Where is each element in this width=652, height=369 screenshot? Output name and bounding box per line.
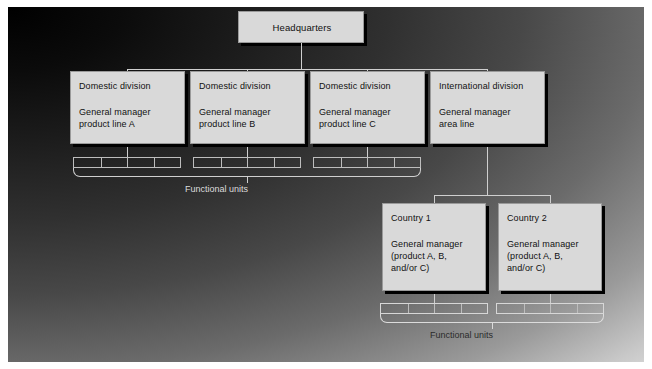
brace-international-functional-units xyxy=(380,314,604,323)
functional-units-bar-div3 xyxy=(313,157,421,168)
connector-international-stem xyxy=(487,147,488,195)
unit-divider xyxy=(274,158,275,167)
connector-hq-bus xyxy=(127,69,487,70)
country-1-heading: Country 1 xyxy=(391,213,431,225)
international-line1: General manager xyxy=(439,107,511,119)
division-a-heading: Domestic division xyxy=(79,81,151,93)
node-domestic-division-a: Domestic division General manager produc… xyxy=(70,71,185,144)
functional-units-bar-country2 xyxy=(496,303,604,314)
country-2-line1: General manager xyxy=(507,239,579,251)
division-c-line1: General manager xyxy=(319,107,391,119)
connector-country-bus xyxy=(434,195,550,196)
brace-international-stem xyxy=(492,323,493,329)
unit-divider xyxy=(550,304,551,313)
country-1-line2: (product A, B, xyxy=(391,251,447,263)
unit-divider xyxy=(221,158,222,167)
node-domestic-division-c: Domestic division General manager produc… xyxy=(310,71,425,144)
country-2-line3: and/or C) xyxy=(507,263,545,275)
unit-divider xyxy=(247,158,248,167)
unit-divider xyxy=(367,158,368,167)
division-c-heading: Domestic division xyxy=(319,81,391,93)
connector-div2-to-units xyxy=(247,147,248,157)
unit-divider xyxy=(577,304,578,313)
node-domestic-division-b: Domestic division General manager produc… xyxy=(190,71,305,144)
division-b-line2: product line B xyxy=(199,119,255,131)
connector-div1-to-units xyxy=(127,147,128,157)
connector-country2-to-units xyxy=(550,294,551,303)
unit-divider xyxy=(394,158,395,167)
country-2-line2: (product A, B, xyxy=(507,251,563,263)
division-a-line2: product line A xyxy=(79,119,135,131)
brace-domestic-functional-units xyxy=(73,168,421,177)
connector-div3-to-units xyxy=(367,147,368,157)
node-country-2: Country 2 General manager (product A, B,… xyxy=(498,203,602,291)
node-international-division: International division General manager a… xyxy=(430,71,545,144)
unit-divider xyxy=(127,158,128,167)
functional-units-label-domestic: Functional units xyxy=(185,184,248,194)
unit-divider xyxy=(101,158,102,167)
international-line2: area line xyxy=(439,119,474,131)
division-a-line1: General manager xyxy=(79,107,151,119)
division-b-line1: General manager xyxy=(199,107,271,119)
functional-units-bar-div1 xyxy=(73,157,181,168)
brace-domestic-stem xyxy=(247,177,248,183)
functional-units-bar-country1 xyxy=(380,303,488,314)
connector-hq-stem xyxy=(301,43,302,69)
functional-units-label-international: Functional units xyxy=(430,330,493,340)
connector-country1-to-units xyxy=(434,294,435,303)
unit-divider xyxy=(341,158,342,167)
unit-divider xyxy=(461,304,462,313)
country-2-heading: Country 2 xyxy=(507,213,547,225)
country-1-line3: and/or C) xyxy=(391,263,429,275)
country-1-line1: General manager xyxy=(391,239,463,251)
unit-divider xyxy=(434,304,435,313)
unit-divider xyxy=(154,158,155,167)
unit-divider xyxy=(408,304,409,313)
division-c-line2: product line C xyxy=(319,119,376,131)
headquarters-label: Headquarters xyxy=(239,22,365,34)
functional-units-bar-div2 xyxy=(193,157,301,168)
node-country-1: Country 1 General manager (product A, B,… xyxy=(382,203,486,291)
international-heading: International division xyxy=(439,81,523,93)
org-chart-canvas: Headquarters Domestic division General m… xyxy=(8,7,644,362)
node-headquarters: Headquarters xyxy=(238,11,364,43)
unit-divider xyxy=(524,304,525,313)
division-b-heading: Domestic division xyxy=(199,81,271,93)
